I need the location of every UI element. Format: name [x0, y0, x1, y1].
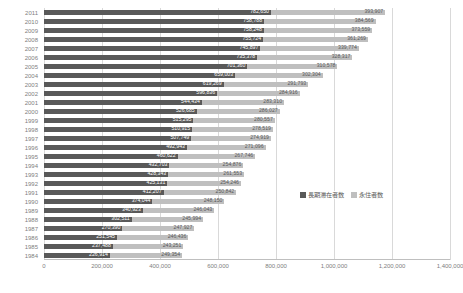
year-label-2002: 2002	[25, 91, 38, 97]
bar-value-label: 302,511	[111, 217, 129, 222]
bar-value-label: 267,746	[234, 154, 253, 159]
bar-segment-permanent: 286,027	[197, 109, 280, 115]
bar-row: 226,914249,354	[44, 253, 450, 259]
bar-value-label: 237,488	[92, 244, 111, 249]
bar-segment-long-stay: 226,914	[44, 253, 110, 259]
bar-segment-long-stay: 374,044	[44, 199, 152, 205]
bar-value-label: 261,553	[223, 172, 242, 177]
year-label-1998: 1998	[25, 127, 38, 133]
x-tick-label-200000: 200,000	[91, 263, 113, 269]
bar-row: 758,788384,569	[44, 19, 450, 25]
bar-row: 659,003302,304	[44, 73, 450, 79]
year-label-1990: 1990	[25, 199, 38, 205]
bar-row: 735,378328,317	[44, 55, 450, 61]
bar-segment-long-stay: 758,788	[44, 19, 264, 25]
legend-label: 永住者数	[359, 192, 383, 198]
x-tick-label-1400000: 1,400,000	[437, 263, 463, 269]
x-tick-label-1000000: 1,000,000	[321, 263, 348, 269]
bar-segment-permanent: 271,096	[187, 145, 266, 151]
bar-segment-permanent: 384,569	[264, 19, 376, 25]
bar-segment-permanent: 291,793	[224, 82, 309, 88]
year-label-2011: 2011	[25, 10, 38, 16]
bar-value-label: 428,343	[147, 172, 166, 177]
bar-segment-permanent: 247,927	[122, 226, 194, 232]
bar-segment-permanent: 248,150	[152, 199, 224, 205]
bar-segment-long-stay: 745,897	[44, 46, 260, 52]
legend-item-permanent[interactable]: 永住者数	[351, 192, 383, 198]
bar-row: 251,545246,436	[44, 235, 450, 241]
bar-segment-long-stay: 659,003	[44, 73, 235, 79]
bar-row: 782,650393,907	[44, 10, 450, 16]
bar-row: 755,724361,269	[44, 37, 450, 43]
bar-value-label: 758,788	[243, 19, 262, 24]
year-label-2005: 2005	[25, 64, 38, 70]
bar-segment-long-stay: 507,749	[44, 136, 191, 142]
bar-value-label: 507,749	[170, 136, 189, 141]
bar-value-label: 755,724	[242, 37, 261, 42]
bar-segment-long-stay: 428,343	[44, 172, 168, 178]
x-tick-label-0: 0	[42, 263, 45, 269]
x-tick-label-600000: 600,000	[207, 263, 229, 269]
bar-segment-permanent: 310,578	[247, 64, 337, 70]
year-label-2006: 2006	[25, 55, 38, 61]
bar-segment-permanent: 339,774	[260, 46, 359, 52]
bar-row: 758,248373,559	[44, 28, 450, 34]
year-label-2004: 2004	[25, 73, 38, 79]
bar-segment-permanent: 243,251	[113, 244, 184, 250]
bar-segment-long-stay: 425,131	[44, 181, 167, 187]
bar-value-label: 393,907	[364, 10, 383, 15]
bar-row: 412,207250,842	[44, 190, 450, 196]
bar-segment-permanent: 302,304	[235, 73, 323, 79]
plot-area: 782,650393,907758,788384,569758,248373,5…	[44, 8, 450, 260]
bar-value-label: 274,919	[250, 136, 269, 141]
chart-legend: 長期滞在者数永住者数	[298, 191, 385, 199]
bar-value-label: 286,027	[259, 109, 278, 114]
bar-value-label: 310,578	[317, 64, 336, 69]
legend-item-long-stay[interactable]: 長期滞在者数	[300, 192, 344, 198]
bar-value-label: 254,246	[220, 181, 239, 186]
bar-segment-long-stay: 526,685	[44, 109, 197, 115]
bar-row: 544,434283,310	[44, 100, 450, 106]
year-label-2010: 2010	[25, 19, 38, 25]
bar-segment-long-stay: 510,915	[44, 127, 192, 133]
bar-segment-long-stay: 701,360	[44, 64, 247, 70]
legend-swatch-icon	[300, 192, 306, 198]
bar-segment-long-stay: 302,511	[44, 217, 132, 223]
bar-value-label: 425,131	[147, 181, 166, 186]
x-tick-label-800000: 800,000	[265, 263, 287, 269]
year-label-2009: 2009	[25, 28, 38, 34]
bar-row: 270,390247,927	[44, 226, 450, 232]
bar-segment-permanent: 361,269	[263, 37, 368, 43]
bar-segment-permanent: 373,559	[264, 28, 372, 34]
bar-row: 237,488243,251	[44, 244, 450, 250]
bar-value-label: 284,916	[279, 91, 298, 96]
bar-segment-permanent: 250,842	[164, 190, 237, 196]
x-axis-line	[44, 259, 450, 260]
bar-segment-permanent: 267,746	[178, 154, 256, 160]
bar-row: 425,131254,246	[44, 181, 450, 187]
bar-value-label: 492,943	[166, 145, 185, 150]
bar-value-label: 254,876	[223, 163, 242, 168]
bar-value-label: 283,310	[263, 100, 282, 105]
bar-value-label: 361,269	[347, 37, 366, 42]
bar-value-label: 373,559	[351, 28, 370, 33]
bar-row: 374,044248,150	[44, 199, 450, 205]
year-label-1996: 1996	[25, 145, 38, 151]
bar-row: 302,511245,994	[44, 217, 450, 223]
bar-row: 701,360310,578	[44, 64, 450, 70]
bar-segment-permanent: 283,310	[202, 100, 284, 106]
bar-segment-permanent: 393,907	[271, 10, 385, 16]
bar-segment-long-stay: 340,923	[44, 208, 143, 214]
bar-segment-long-stay: 758,248	[44, 28, 264, 34]
bar-value-label: 280,557	[254, 118, 273, 123]
bar-segment-long-stay: 412,207	[44, 190, 164, 196]
year-label-1991: 1991	[25, 190, 38, 196]
bar-value-label: 374,044	[132, 199, 151, 204]
bar-value-label: 245,994	[182, 217, 201, 222]
bar-value-label: 270,390	[102, 226, 121, 231]
year-label-2008: 2008	[25, 37, 38, 43]
bar-value-label: 247,927	[174, 226, 193, 231]
bar-value-label: 412,207	[143, 190, 162, 195]
year-label-1984: 1984	[25, 253, 38, 259]
